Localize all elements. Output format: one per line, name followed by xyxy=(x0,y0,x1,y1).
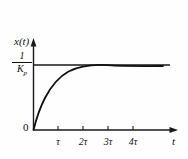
fraction-denominator-base: K xyxy=(17,63,24,74)
fraction-denominator-subscript: p xyxy=(24,69,28,77)
x-axis-label: t xyxy=(172,136,175,147)
y-axis-arrow-icon xyxy=(31,38,37,47)
figure-container: x(t) t 0 1 Kp τ 2τ 3τ 4τ xyxy=(0,0,188,159)
origin-label: 0 xyxy=(23,122,29,133)
x-tick-label-2: 2τ xyxy=(79,136,88,147)
fraction-numerator: 1 xyxy=(12,51,32,61)
y-axis-label: x(t) xyxy=(14,36,29,47)
steady-state-value-label: 1 Kp xyxy=(12,51,32,77)
x-tick-label-1: τ xyxy=(56,136,60,147)
x-tick-label-4: 4τ xyxy=(129,136,138,147)
x-axis-arrow-icon xyxy=(170,127,179,133)
fraction-denominator: Kp xyxy=(12,64,32,77)
x-tick-label-3: 3τ xyxy=(104,136,113,147)
response-curve-path xyxy=(34,65,164,130)
plot-canvas xyxy=(0,0,188,159)
